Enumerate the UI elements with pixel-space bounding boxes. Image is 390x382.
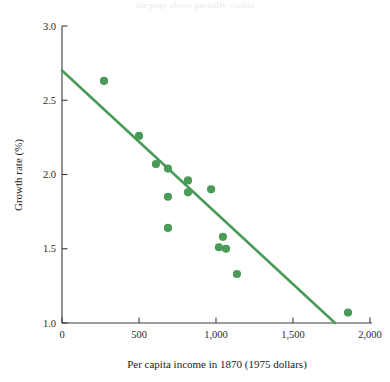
- x-axis-title: Per capita income in 1870 (1975 dollars): [127, 358, 307, 371]
- data-point: [100, 77, 108, 85]
- y-tick-label: 2.5: [43, 95, 56, 106]
- data-point: [164, 164, 172, 172]
- y-tick-label: 2.0: [43, 169, 56, 180]
- data-point: [219, 233, 227, 241]
- axes: [62, 26, 372, 323]
- data-point: [215, 243, 223, 251]
- y-axis-title: Growth rate (%): [12, 139, 25, 211]
- data-point: [164, 224, 172, 232]
- x-tick-label: 0: [59, 329, 64, 340]
- x-tick-label: 1,000: [204, 329, 228, 340]
- regression-line: [62, 71, 335, 323]
- x-tick-label: 500: [131, 329, 147, 340]
- x-tick-label: 2,000: [358, 329, 382, 340]
- data-point: [344, 309, 352, 317]
- data-point: [152, 160, 160, 168]
- figure-container: the page above partially visible 1.01.52…: [0, 0, 390, 382]
- regression-line-layer: [62, 71, 335, 323]
- data-points-layer: [100, 77, 352, 317]
- data-point: [184, 188, 192, 196]
- top-bleed-text: the page above partially visible: [0, 0, 390, 10]
- data-point: [233, 270, 241, 278]
- x-tick-label: 1,500: [281, 329, 305, 340]
- data-point: [135, 132, 143, 140]
- y-tick-label: 3.0: [43, 21, 56, 32]
- scatter-chart: 1.01.52.02.53.0 05001,0001,5002,000 Grow…: [0, 0, 390, 382]
- data-point: [207, 185, 215, 193]
- y-axis-ticks: 1.01.52.02.53.0: [43, 21, 68, 329]
- y-tick-label: 1.5: [43, 243, 56, 254]
- y-tick-label: 1.0: [43, 318, 56, 329]
- data-point: [184, 176, 192, 184]
- data-point: [164, 193, 172, 201]
- data-point: [222, 245, 230, 253]
